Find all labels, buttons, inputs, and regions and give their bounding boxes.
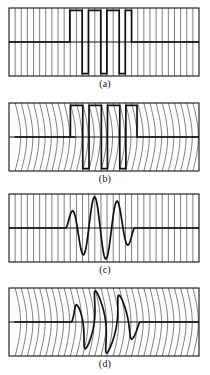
panel-label-c: (c): [0, 264, 210, 275]
panel-plot-c: [8, 193, 200, 263]
panel-label-a: (a): [0, 78, 210, 89]
panel-plot-a: [8, 7, 200, 77]
panel-content-b: [9, 103, 200, 171]
panel-label-b: (b): [0, 173, 210, 184]
panel-content-c: [9, 194, 199, 262]
panel-label-d: (d): [0, 358, 210, 369]
panel-plot-d: [8, 287, 200, 357]
panel-plot-b: [8, 102, 200, 172]
panel-content-d: [9, 288, 200, 356]
panel-content-a: [9, 8, 199, 76]
figure-container: (a)(b)(c)(d): [0, 0, 210, 375]
